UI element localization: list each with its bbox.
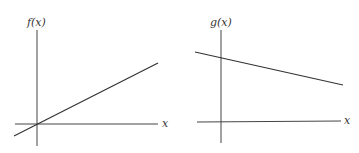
f-graph: f(x) x <box>14 16 169 146</box>
f-x-label: x <box>162 117 169 130</box>
g-line <box>195 52 343 85</box>
g-graph: g(x) x <box>195 16 351 143</box>
g-x-label: x <box>344 114 351 127</box>
f-y-label: f(x) <box>26 16 46 29</box>
diagram-canvas: f(x) x g(x) x <box>0 0 359 153</box>
g-y-label: g(x) <box>210 16 232 29</box>
f-line <box>14 63 158 136</box>
g-x-axis <box>197 121 341 122</box>
